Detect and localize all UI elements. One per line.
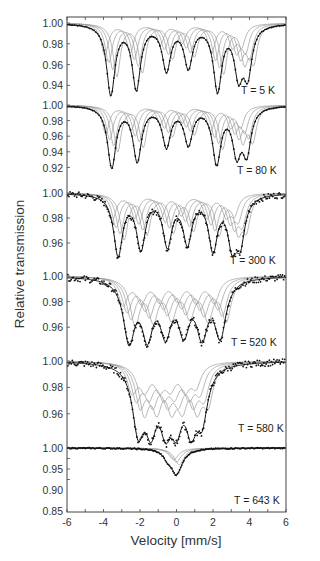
data-point <box>235 158 237 160</box>
data-point <box>259 279 261 281</box>
data-point <box>186 329 188 331</box>
data-point <box>227 370 229 372</box>
data-point <box>272 196 274 198</box>
data-point <box>169 437 171 439</box>
data-point <box>142 245 144 247</box>
data-point <box>205 222 207 224</box>
data-point <box>85 279 87 281</box>
data-point <box>69 191 71 193</box>
data-point <box>161 129 163 131</box>
data-point <box>172 439 174 441</box>
data-point <box>155 430 157 432</box>
data-point <box>96 198 98 200</box>
data-point <box>276 107 278 109</box>
data-point <box>92 29 94 31</box>
data-point <box>116 294 118 296</box>
data-point <box>215 85 217 87</box>
data-point <box>207 41 209 43</box>
data-point <box>183 236 185 238</box>
data-point <box>121 241 123 243</box>
data-point <box>109 215 111 217</box>
data-point <box>135 227 137 229</box>
y-tick: 0.85 <box>43 505 64 517</box>
data-point <box>205 39 207 41</box>
data-point <box>72 24 74 26</box>
data-point <box>77 193 79 195</box>
data-point <box>126 44 128 46</box>
data-point <box>270 365 272 367</box>
data-point <box>228 130 230 132</box>
y-tick: 0.96 <box>43 130 64 142</box>
data-point <box>256 39 258 41</box>
data-point <box>145 232 147 234</box>
data-point <box>163 337 165 339</box>
data-point <box>98 362 100 364</box>
data-point <box>179 436 181 438</box>
data-point <box>166 461 168 463</box>
data-point <box>163 439 165 441</box>
data-point <box>178 438 180 440</box>
data-point <box>184 338 186 340</box>
data-point <box>154 117 156 119</box>
data-point <box>181 427 183 429</box>
data-point <box>215 164 217 166</box>
data-point <box>243 282 245 284</box>
data-point <box>183 460 185 462</box>
data-point <box>247 364 249 366</box>
data-point <box>204 421 206 423</box>
data-point <box>148 342 150 344</box>
data-point <box>115 290 117 292</box>
data-point <box>133 144 135 146</box>
data-point <box>121 122 123 124</box>
data-point <box>235 363 237 365</box>
data-point <box>256 117 258 119</box>
data-point <box>165 342 167 344</box>
data-point <box>284 275 286 277</box>
data-point <box>259 201 261 203</box>
temperature-label: T = 520 K <box>231 336 277 348</box>
data-point <box>264 196 266 198</box>
data-point <box>74 24 76 26</box>
data-point <box>271 361 273 363</box>
data-point <box>77 106 79 108</box>
data-point <box>209 240 211 242</box>
data-point <box>207 230 209 232</box>
data-point <box>83 26 85 28</box>
data-point <box>249 211 251 213</box>
data-point <box>264 275 266 277</box>
data-point <box>263 30 265 32</box>
data-point <box>196 435 198 437</box>
data-point <box>224 370 226 372</box>
data-point <box>230 250 232 252</box>
data-point <box>89 363 91 365</box>
data-point <box>70 279 72 281</box>
data-point <box>202 429 204 431</box>
data-point <box>203 118 205 120</box>
data-point <box>76 278 78 280</box>
data-point <box>149 36 151 38</box>
data-point <box>210 51 212 53</box>
data-point <box>168 248 170 250</box>
data-point <box>172 125 174 127</box>
y-tick: 0.96 <box>43 237 64 249</box>
data-point <box>258 281 260 283</box>
data-point <box>238 250 240 252</box>
data-point <box>140 327 142 329</box>
data-point <box>122 235 124 237</box>
data-point <box>221 222 223 224</box>
data-point <box>211 321 213 323</box>
data-point <box>194 125 196 127</box>
data-point <box>258 35 260 37</box>
y-tick: 0.98 <box>43 115 64 127</box>
data-point <box>200 432 202 434</box>
data-point <box>131 64 133 66</box>
data-point <box>134 426 136 428</box>
data-point <box>67 24 69 26</box>
data-point <box>277 361 279 363</box>
data-point <box>98 114 100 116</box>
data-point <box>86 363 88 365</box>
data-point <box>282 358 284 360</box>
data-point <box>206 224 208 226</box>
data-point <box>139 68 141 70</box>
data-point <box>132 218 134 220</box>
